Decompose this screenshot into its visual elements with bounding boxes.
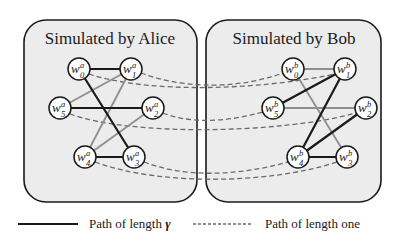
node-w2a: w a 2	[142, 97, 164, 119]
svg-text:w: w	[77, 149, 86, 164]
svg-text:a: a	[135, 148, 139, 158]
alice-panel-title: Simulated by Alice	[45, 29, 175, 48]
svg-text:w: w	[126, 149, 135, 164]
svg-text:a: a	[154, 99, 158, 109]
svg-text:3: 3	[134, 158, 139, 168]
node-w0b: w b 0	[282, 58, 304, 80]
node-w1a: w a 1	[120, 58, 142, 80]
node-w1b: w b 1	[334, 58, 356, 80]
svg-text:b: b	[299, 148, 303, 158]
svg-text:w: w	[285, 61, 294, 76]
svg-text:w: w	[52, 100, 61, 115]
svg-text:a: a	[132, 60, 136, 70]
svg-text:a: a	[86, 148, 90, 158]
node-w3a: w a 3	[123, 146, 145, 168]
svg-text:w: w	[358, 100, 367, 115]
node-w0a: w a 0	[68, 58, 90, 80]
svg-text:w: w	[145, 100, 154, 115]
svg-text:w: w	[71, 61, 80, 76]
svg-text:5: 5	[61, 109, 65, 119]
svg-text:w: w	[290, 149, 299, 164]
svg-text:1: 1	[346, 70, 350, 80]
svg-text:b: b	[274, 99, 278, 109]
svg-text:b: b	[346, 60, 350, 70]
svg-text:a: a	[61, 99, 65, 109]
diagram-canvas: Simulated by Alice Simulated by Bob w a …	[0, 0, 404, 243]
svg-text:b: b	[367, 99, 371, 109]
legend: Path of length γ Path of length one	[18, 216, 360, 231]
node-w5b: w b 5	[262, 97, 284, 119]
svg-text:a: a	[80, 60, 84, 70]
node-w2b: w b 2	[355, 97, 377, 119]
node-w4a: w a 4	[74, 146, 96, 168]
svg-text:w: w	[339, 149, 348, 164]
legend-dashed-label: Path of length one	[265, 216, 360, 231]
svg-text:w: w	[265, 100, 274, 115]
svg-text:3: 3	[347, 158, 352, 168]
node-w4b: w b 4	[287, 146, 309, 168]
svg-text:b: b	[294, 60, 298, 70]
legend-solid-label: Path of length γ	[89, 216, 171, 231]
node-w5a: w a 5	[49, 97, 71, 119]
svg-text:w: w	[123, 61, 132, 76]
svg-text:1: 1	[132, 70, 136, 80]
node-w3b: w b 3	[336, 146, 358, 168]
svg-text:5: 5	[274, 109, 278, 119]
svg-text:w: w	[337, 61, 346, 76]
bob-panel-title: Simulated by Bob	[233, 29, 356, 48]
svg-text:b: b	[348, 148, 352, 158]
